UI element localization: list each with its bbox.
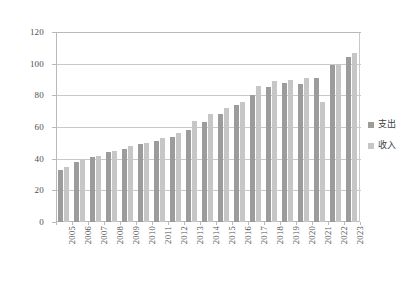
x-tick-label: 2022 — [340, 226, 349, 244]
x-tick-mark — [200, 222, 201, 225]
bar — [192, 121, 197, 222]
legend-label: 收入 — [378, 141, 396, 150]
bar-group — [296, 32, 312, 222]
bar-group — [168, 32, 184, 222]
bar-group — [152, 32, 168, 222]
bar — [154, 141, 159, 222]
x-tick-label: 2005 — [68, 226, 77, 244]
bar — [336, 64, 341, 222]
x-tick-mark — [104, 222, 105, 225]
x-tick-mark — [216, 222, 217, 225]
x-tick-label: 2015 — [228, 226, 237, 244]
x-tick-label: 2012 — [180, 226, 189, 244]
x-tick-mark — [248, 222, 249, 225]
x-tick-label: 2016 — [244, 226, 253, 244]
bar — [282, 83, 287, 222]
legend-item[interactable]: 支出 — [368, 120, 414, 129]
x-tick-mark — [120, 222, 121, 225]
bar — [256, 86, 261, 222]
bar — [128, 146, 133, 222]
bar — [202, 122, 207, 222]
x-tick-label: 2009 — [132, 226, 141, 244]
bar — [170, 137, 175, 223]
y-tick-label: 40 — [35, 154, 44, 163]
bar — [96, 156, 101, 223]
x-tick-label: 2020 — [308, 226, 317, 244]
bar — [298, 84, 303, 222]
x-tick-label: 2007 — [100, 226, 109, 244]
x-tick-mark — [328, 222, 329, 225]
bar — [240, 102, 245, 222]
bar — [112, 151, 117, 222]
bar — [160, 138, 165, 222]
bar — [352, 53, 357, 222]
x-tick-label: 2021 — [324, 226, 333, 244]
x-tick-mark — [72, 222, 73, 225]
x-tick-mark — [360, 222, 361, 225]
bar — [144, 143, 149, 222]
bar — [90, 157, 95, 222]
x-tick-label: 2023 — [356, 226, 365, 244]
x-tick-label: 2018 — [276, 226, 285, 244]
bar — [304, 78, 309, 222]
y-tick-label: 80 — [35, 91, 44, 100]
bar — [234, 105, 239, 222]
x-tick-label: 2006 — [84, 226, 93, 244]
y-tick-label: 100 — [30, 59, 44, 68]
x-tick-mark — [312, 222, 313, 225]
bar — [250, 95, 255, 222]
y-tick-label: 60 — [35, 123, 44, 132]
x-tick-mark — [280, 222, 281, 225]
x-tick-label: 2019 — [292, 226, 301, 244]
bars-layer — [56, 32, 360, 222]
x-tick-mark — [296, 222, 297, 225]
y-tick-label: 120 — [30, 28, 44, 37]
legend-swatch-icon — [368, 143, 374, 149]
bar — [74, 162, 79, 222]
bar — [314, 78, 319, 222]
bar — [122, 149, 127, 222]
y-tick-label: 20 — [35, 186, 44, 195]
x-tick-mark — [136, 222, 137, 225]
bar — [58, 170, 63, 222]
bar-group — [200, 32, 216, 222]
x-tick-mark — [232, 222, 233, 225]
bar-group — [328, 32, 344, 222]
bar-group — [72, 32, 88, 222]
bar — [288, 80, 293, 223]
legend-item[interactable]: 收入 — [368, 141, 414, 150]
bar — [320, 102, 325, 222]
x-tick-mark — [264, 222, 265, 225]
bar — [176, 133, 181, 222]
bar-group — [136, 32, 152, 222]
x-tick-mark — [344, 222, 345, 225]
bar — [64, 167, 69, 222]
x-tick-mark — [184, 222, 185, 225]
bar-group — [216, 32, 232, 222]
bar-chart: 020406080100120 200520062007200820092010… — [0, 0, 414, 283]
bar — [106, 152, 111, 222]
x-tick-label: 2017 — [260, 226, 269, 244]
bar — [266, 87, 271, 222]
y-tick-label: 0 — [39, 218, 44, 227]
x-tick-mark — [56, 222, 57, 225]
bar — [208, 114, 213, 222]
y-axis: 020406080100120 — [0, 0, 52, 283]
bar-group — [88, 32, 104, 222]
bar-group — [248, 32, 264, 222]
bar — [218, 114, 223, 222]
bar — [346, 57, 351, 222]
bar — [138, 144, 143, 222]
bar-group — [344, 32, 360, 222]
x-tick-label: 2011 — [164, 226, 173, 244]
bar — [272, 81, 277, 222]
x-tick-label: 2008 — [116, 226, 125, 244]
x-tick-mark — [168, 222, 169, 225]
bar-group — [120, 32, 136, 222]
bar — [330, 65, 335, 222]
bar — [224, 108, 229, 222]
bar — [186, 130, 191, 222]
x-tick-label: 2013 — [196, 226, 205, 244]
chart-legend: 支出收入 — [368, 120, 414, 162]
x-tick-mark — [152, 222, 153, 225]
